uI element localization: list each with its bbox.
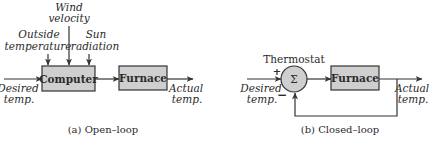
open-loop-diagram: Wind velocity Outside temperature Sun ra… bbox=[0, 1, 203, 135]
desired-label-line2-closed: temp. bbox=[247, 93, 277, 105]
sigma-icon: Σ bbox=[290, 73, 297, 85]
control-diagrams: Wind velocity Outside temperature Sun ra… bbox=[0, 0, 432, 141]
minus-sign: − bbox=[277, 88, 287, 102]
furnace-label-closed: Furnace bbox=[331, 72, 379, 84]
actual-label-line2: temp. bbox=[172, 93, 202, 105]
actual-label-line2-closed: temp. bbox=[398, 93, 428, 105]
outside-temp-label-line2: temperature bbox=[5, 40, 72, 52]
caption-open-loop: (a) Open–loop bbox=[68, 124, 139, 135]
computer-label: Computer bbox=[39, 73, 98, 85]
sun-label-line2: radiation bbox=[71, 40, 120, 52]
furnace-label-open: Furnace bbox=[119, 72, 167, 84]
sun-label-line1: Sun bbox=[86, 28, 107, 40]
caption-closed-loop: (b) Closed–loop bbox=[301, 124, 379, 135]
thermostat-label: Thermostat bbox=[263, 53, 325, 65]
outside-temp-label-line1: Outside bbox=[18, 28, 59, 40]
closed-loop-diagram: Thermostat + Desired temp. Σ − Furnace A… bbox=[239, 53, 429, 135]
plus-sign: + bbox=[273, 66, 281, 77]
wind-label-line2: velocity bbox=[48, 12, 90, 24]
desired-label-line2: temp. bbox=[4, 93, 34, 105]
